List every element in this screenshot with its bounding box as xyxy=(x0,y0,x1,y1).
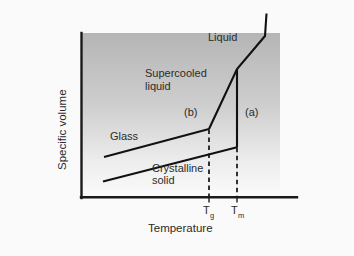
region-label-liquid: Liquid xyxy=(208,31,237,43)
specific-volume-temperature-chart: T g T m Specific volume Temperature Liqu… xyxy=(0,0,354,256)
tick-label-tg-base: T xyxy=(203,204,210,216)
x-axis-label: Temperature xyxy=(148,222,213,234)
path-label-a: (a) xyxy=(245,106,258,118)
region-label-crystalline-solid-line2: solid xyxy=(152,174,175,186)
region-label-supercooled-liquid-line2: liquid xyxy=(145,80,171,92)
region-label-supercooled-liquid-line1: Supercooled xyxy=(145,67,207,79)
region-label-crystalline-solid-line1: Crystalline xyxy=(152,162,203,174)
y-axis-label: Specific volume xyxy=(56,89,68,170)
tick-label-tm-subscript: m xyxy=(238,211,244,220)
region-label-glass: Glass xyxy=(110,130,139,142)
path-label-b: (b) xyxy=(184,106,197,118)
tick-label-tm-base: T xyxy=(231,204,238,216)
figure-container: T g T m Specific volume Temperature Liqu… xyxy=(0,0,354,256)
tick-label-tg-subscript: g xyxy=(210,211,214,220)
